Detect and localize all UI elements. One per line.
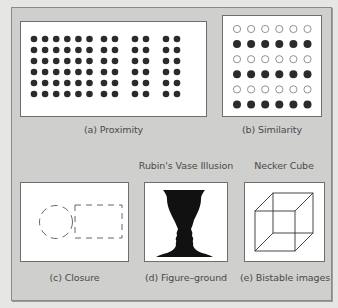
necker-cube [245,183,324,261]
necker-cube-title: Necker Cube [239,160,329,171]
proximity-dot [132,80,139,87]
similarity-dot-filled [261,40,269,48]
proximity-dot [174,58,181,65]
similarity-dot-open [290,56,297,63]
bistable-panel [244,182,325,262]
proximity-dot [143,80,150,87]
proximity-dot [143,58,150,65]
proximity-dot [101,80,108,87]
proximity-dot [163,36,170,43]
dashed-rectangle [75,205,122,238]
proximity-dot [163,69,170,76]
proximity-dot [112,58,119,65]
similarity-caption: (b) Similarity [222,124,322,135]
proximity-dot [53,47,60,54]
closure-panel [20,182,129,262]
similarity-dot-open [233,86,240,93]
similarity-dot-open [262,56,269,63]
proximity-dot [112,47,119,54]
proximity-dot [132,58,139,65]
similarity-dot-open [233,25,240,32]
proximity-dot [75,36,82,43]
closure-shapes [21,183,128,261]
proximity-dot [174,36,181,43]
proximity-dot [53,58,60,65]
vase-silhouette [156,190,213,257]
proximity-dot [143,69,150,76]
proximity-dot [31,69,38,76]
closure-caption: (c) Closure [20,272,129,283]
proximity-dot [101,58,108,65]
proximity-dot [101,36,108,43]
similarity-dot-open [276,25,283,32]
rubins-vase [145,183,227,261]
similarity-dot-open [248,86,255,93]
proximity-dot [174,69,181,76]
similarity-dot-open [304,25,311,32]
similarity-dot-open [248,25,255,32]
similarity-dot-filled [233,40,241,48]
proximity-panel [20,21,207,117]
proximity-dot [101,47,108,54]
proximity-dot [64,58,71,65]
similarity-dot-open [262,86,269,93]
proximity-dot [75,58,82,65]
similarity-dot-open [290,25,297,32]
proximity-dot [132,69,139,76]
proximity-dot [53,91,60,98]
similarity-dot-filled [275,40,283,48]
proximity-dot [75,47,82,54]
similarity-dot-filled [289,70,297,78]
similarity-dot-filled [233,70,241,78]
proximity-dot [64,80,71,87]
proximity-dot [42,58,49,65]
similarity-dot-filled [233,101,241,109]
dashed-circle [40,206,73,239]
proximity-dot [163,58,170,65]
proximity-dot [101,69,108,76]
proximity-dot [42,36,49,43]
proximity-dot [31,47,38,54]
similarity-dot-filled [247,40,255,48]
proximity-dot [53,36,60,43]
cube-edge [255,193,273,211]
proximity-dots [21,22,206,116]
proximity-dot [31,58,38,65]
proximity-dot [86,47,93,54]
proximity-dot [86,36,93,43]
similarity-dot-open [304,86,311,93]
proximity-dot [75,69,82,76]
proximity-dot [86,91,93,98]
proximity-dot [174,47,181,54]
proximity-dot [75,91,82,98]
similarity-dot-filled [275,101,283,109]
similarity-dot-open [276,56,283,63]
proximity-dot [53,80,60,87]
proximity-dot [31,91,38,98]
rubins-vase-title: Rubin's Vase Illusion [136,160,236,171]
proximity-dot [112,36,119,43]
proximity-dot [174,80,181,87]
proximity-dot [112,91,119,98]
proximity-dot [86,69,93,76]
similarity-panel [222,15,322,117]
similarity-dot-filled [247,101,255,109]
proximity-dot [163,91,170,98]
proximity-dot [31,36,38,43]
bistable-caption: (e) Bistable images [237,272,333,283]
proximity-dot [31,80,38,87]
proximity-dot [101,91,108,98]
proximity-dot [143,47,150,54]
similarity-dot-filled [304,101,312,109]
proximity-dot [42,91,49,98]
similarity-dot-filled [261,101,269,109]
proximity-dot [174,91,181,98]
cube-edge [255,233,273,251]
proximity-dot [53,69,60,76]
proximity-dot [163,80,170,87]
proximity-dot [132,36,139,43]
figure-ground-caption: (d) Figure–ground [136,272,236,283]
similarity-dot-open [248,56,255,63]
similarity-dot-open [262,25,269,32]
similarity-dot-filled [304,40,312,48]
